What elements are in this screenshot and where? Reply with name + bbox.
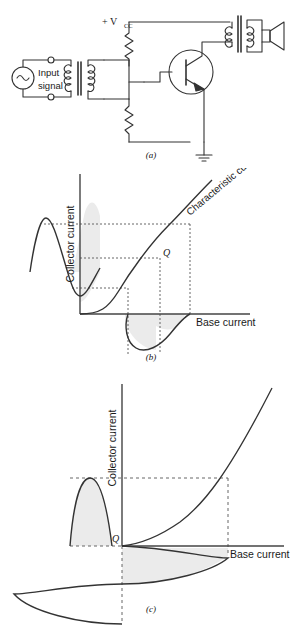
bias-resistor-lower <box>125 99 133 142</box>
y-axis-label: Collector current <box>64 205 76 282</box>
shaded-regions-c <box>70 478 228 584</box>
input-transformer-secondary <box>88 65 95 92</box>
input-terminal-top <box>48 57 54 63</box>
x-axis-label-c: Base current <box>230 548 290 560</box>
input-wave-shade-bottom <box>125 314 156 350</box>
characteristic-curve-label: Characteristic curve <box>184 168 259 218</box>
loudspeaker-icon <box>262 22 284 50</box>
source-lead-top <box>23 60 50 67</box>
emitter-arrow-icon <box>194 83 204 91</box>
input-signal-label-line1: Input <box>38 67 59 78</box>
axes <box>80 174 250 314</box>
y-axis-label-c: Collector current <box>106 409 118 486</box>
output-transformer-primary <box>225 27 232 47</box>
collector-lead <box>186 42 232 66</box>
base-lead <box>144 72 172 82</box>
npn-transistor-envelope <box>169 50 213 94</box>
class-b-chart-svg: Collector current Base current Q <box>0 368 302 632</box>
ac-source-sine-glyph <box>17 76 29 81</box>
vcc-label-text: + V <box>102 16 118 27</box>
axes-c <box>122 384 284 546</box>
output-transformer-secondary <box>247 27 254 47</box>
caption-a: (a) <box>0 150 302 160</box>
output-wave-shade-upper <box>72 203 100 273</box>
vcc-label-subscript: CC <box>124 22 133 29</box>
caption-b: (b) <box>0 352 302 362</box>
panel-a-circuit: + V CC Input signal <box>0 0 302 170</box>
class-a-chart-svg: Collector current Base current Character… <box>0 168 302 368</box>
output-pulse-shade <box>70 478 112 546</box>
q-point-label-c: Q <box>112 533 120 544</box>
speaker-lead-top <box>247 20 262 30</box>
q-point-label: Q <box>163 247 171 258</box>
caption-c: (c) <box>0 604 302 614</box>
figure-page: + V CC Input signal (a) <box>0 0 302 632</box>
vcc-label: + V CC <box>102 16 133 29</box>
input-signal-label-line2: signal <box>38 80 63 91</box>
x-axis-label: Base current <box>196 316 256 328</box>
panel-c-class-b-chart: Collector current Base current Q <box>0 368 302 632</box>
input-terminal-bottom <box>48 94 54 100</box>
circuit-schematic-svg: + V CC Input signal <box>0 0 302 170</box>
panel-b-class-a-chart: Collector current Base current Character… <box>0 168 302 368</box>
secondary-lead-bottom <box>88 91 104 99</box>
input-transformer-primary <box>64 65 71 92</box>
characteristic-curve-c <box>122 388 272 546</box>
